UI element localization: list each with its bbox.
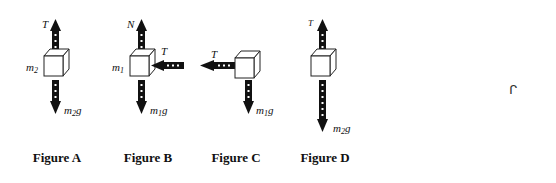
force-label-tension: T xyxy=(308,19,313,28)
force-label-normal: N xyxy=(127,19,134,30)
force-label-tension: T xyxy=(42,19,48,30)
caption-figure-b: Figure B xyxy=(124,150,173,166)
caption-figure-a: Figure A xyxy=(33,150,82,166)
caption-figure-d: Figure D xyxy=(300,150,349,166)
caption-figure-c: Figure C xyxy=(211,150,260,166)
force-label-weight: m2g xyxy=(64,105,81,118)
block-label: m2 xyxy=(26,62,38,75)
figure-b xyxy=(130,19,184,114)
force-label-tension: T xyxy=(161,46,167,57)
block-cube xyxy=(44,49,69,76)
arrow-up-tension xyxy=(50,19,61,52)
force-label-weight: m1g xyxy=(150,105,167,118)
block-cube xyxy=(130,49,155,76)
block-cube xyxy=(311,49,336,76)
arrow-left-tension xyxy=(200,60,235,71)
arrow-down-weight xyxy=(317,80,328,132)
free-body-diagrams xyxy=(0,0,556,183)
arrow-down-weight xyxy=(136,80,147,114)
force-label-tension: T xyxy=(211,49,217,60)
arrow-down-weight xyxy=(50,80,61,114)
arrow-up-normal xyxy=(136,19,147,52)
block-label: m1 xyxy=(112,62,124,75)
arrow-down-weight xyxy=(243,80,254,114)
force-label-weight: m1g xyxy=(256,105,273,118)
force-label-weight: m2g xyxy=(333,123,350,136)
figure-a xyxy=(44,19,69,114)
stray-pen-mark: ᒋ xyxy=(509,82,517,98)
block-cube xyxy=(235,51,260,78)
figure-d xyxy=(311,19,336,132)
arrow-up-tension xyxy=(317,19,328,52)
arrow-left-tension xyxy=(151,60,184,71)
figure-c xyxy=(200,51,260,114)
